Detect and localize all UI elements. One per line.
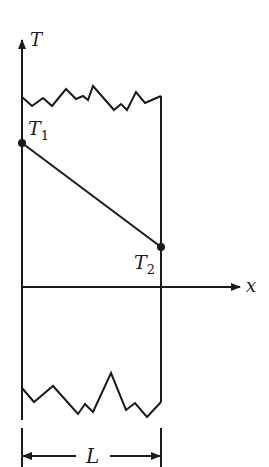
slab-bottom-break-line: [22, 373, 161, 417]
dimension-label-l: L: [85, 444, 99, 467]
slab-top-break-line: [22, 86, 161, 110]
t2-point: [157, 243, 165, 251]
slab-diagram: T T1 T2 x L: [0, 0, 269, 467]
t-axis-label: T: [30, 29, 44, 50]
x-axis-label: x: [246, 275, 256, 296]
temperature-profile-line: [22, 143, 161, 247]
t2-label: T2: [134, 251, 155, 277]
t1-label: T1: [28, 117, 49, 143]
t1-point: [18, 139, 26, 147]
